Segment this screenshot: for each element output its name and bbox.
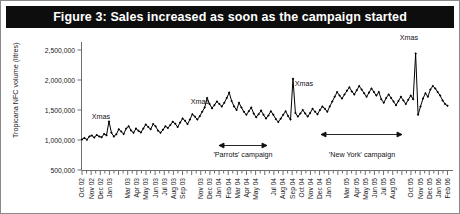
annotation-xmas-4: Xmas — [400, 33, 419, 42]
x-tick-label: Mar 03 — [124, 178, 131, 199]
x-tick-label: May 05 — [362, 178, 370, 200]
x-tick-label: Dec 04 — [316, 178, 323, 199]
data-series-tropicana-nfc-volume — [82, 54, 448, 140]
y-axis-title: Tropicana NFC volume (litres) — [11, 42, 20, 138]
x-tick-label: Nov 03 — [197, 178, 204, 199]
x-tick-label: Feb 04 — [225, 178, 232, 199]
figure-container: Figure 3: Sales increased as soon as the… — [0, 0, 460, 214]
line-chart: Tropicana NFC volume (litres) 2,500,000 … — [1, 28, 460, 214]
annotation-xmas-1: Xmas — [92, 112, 111, 121]
x-tick-label: Aug 05 — [389, 178, 397, 199]
x-tick-label: Apr 04 — [243, 178, 251, 198]
x-tick-label: Sep 04 — [289, 178, 297, 199]
y-tick-label-2500000: 2,500,000 — [45, 47, 75, 54]
x-tick-label: Jan 04 — [215, 178, 222, 198]
x-tick-label: Jan 06 — [435, 178, 442, 198]
x-tick-label: Nov 05 — [417, 178, 424, 199]
y-tick-label-500000: 500,000 — [50, 167, 75, 174]
figure-title: Figure 3: Sales increased as soon as the… — [53, 10, 407, 24]
x-tick-label: Nov 02 — [88, 178, 95, 199]
x-tick-label: Jul 04 — [270, 178, 277, 196]
data-point-marker — [414, 52, 417, 55]
y-tick-label-1000000: 1,000,000 — [45, 137, 75, 144]
annotation-parrots-arrow — [219, 143, 267, 148]
x-tick-label: Jul 03 — [161, 178, 168, 196]
annotation-newyork-arrow — [321, 132, 402, 137]
x-tick-label: Sep 03 — [179, 178, 187, 199]
x-tick-label: Nov 04 — [307, 178, 314, 199]
x-tick-label: Mar 04 — [234, 178, 241, 199]
x-tick-label: Mar 05 — [343, 178, 350, 199]
x-tick-label: Oct 04 — [298, 178, 305, 198]
x-tick-label: Apr 05 — [353, 178, 361, 198]
x-tick-label: Jan 05 — [325, 178, 332, 198]
x-tick-label: Dec 03 — [206, 178, 213, 199]
x-tick-label: Apr 03 — [133, 178, 141, 198]
annotation-newyork-campaign: 'New York' campaign — [329, 150, 395, 159]
x-axis-ticks: Oct 02Nov 02Dec 02Jan 03Mar 03Apr 03May … — [78, 171, 451, 200]
x-tick-label: Aug 04 — [279, 178, 287, 199]
annotation-xmas-2: Xmas — [191, 97, 210, 106]
annotation-parrots-campaign: 'Parrots' campaign — [213, 150, 272, 159]
y-tick-marks — [78, 50, 82, 170]
x-tick-label: Dec 05 — [426, 178, 433, 199]
data-point-marker — [419, 105, 422, 108]
x-tick-label: Oct 02 — [78, 178, 85, 198]
x-tick-label: Dec 02 — [97, 178, 104, 199]
chart-plot-area: Tropicana NFC volume (litres) 2,500,000 … — [1, 28, 460, 214]
data-point-marker — [417, 114, 420, 117]
data-point-markers — [81, 52, 449, 141]
x-tick-label: Feb 06 — [444, 178, 451, 199]
y-tick-label-1500000: 1,500,000 — [45, 107, 75, 114]
annotation-xmas-3: Xmas — [295, 79, 314, 88]
y-tick-label-2000000: 2,000,000 — [45, 77, 75, 84]
x-tick-label: May 03 — [142, 178, 150, 200]
x-tick-label: Jun 05 — [371, 178, 378, 198]
x-tick-label: May 04 — [252, 178, 260, 200]
x-tick-label: Jun 03 — [152, 178, 159, 198]
x-tick-label: Aug 03 — [170, 178, 178, 199]
x-tick-label: Jan 03 — [106, 178, 113, 198]
x-tick-label: Oct 05 — [407, 178, 414, 198]
figure-title-banner: Figure 3: Sales increased as soon as the… — [6, 6, 454, 28]
x-tick-label: Jul 05 — [380, 178, 387, 196]
